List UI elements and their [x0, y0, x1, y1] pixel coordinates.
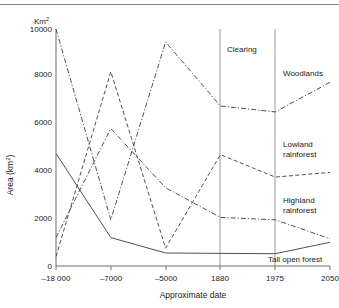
svg-text:Area (km2): Area (km2) — [5, 155, 15, 196]
x-tick-5000: –5000 — [155, 274, 178, 283]
x-tick-1975: 1975 — [266, 274, 284, 283]
y-tick-labels: 0 2000 4000 6000 8000 10000 — [30, 25, 53, 271]
series-line-lowland-rainforest — [56, 72, 330, 257]
y-axis-title: Area (km2) — [5, 155, 15, 196]
series-label-highland-rainforest-line2: rainforest — [283, 206, 317, 215]
series-label-tall-open-forest: Tall open forest — [268, 255, 323, 264]
y-tick-0: 0 — [48, 262, 53, 271]
x-tick-marks — [56, 266, 330, 270]
x-tick-labels: –18 000 –7000 –5000 1880 1975 2050 — [42, 274, 339, 283]
y-tick-6000: 6000 — [34, 118, 52, 127]
x-tick-1880: 1880 — [211, 274, 229, 283]
x-axis-title: Approximate date — [160, 290, 227, 300]
chart-svg: Km2 Area (km2) 0 2000 4000 6000 8000 100… — [0, 0, 339, 308]
x-tick-2050: 2050 — [321, 274, 339, 283]
x-tick-7000: –7000 — [100, 274, 123, 283]
series-line-woodlands — [56, 29, 330, 220]
series-label-lowland-rainforest-line1: Lowland — [283, 140, 313, 149]
y-tick-4000: 4000 — [34, 166, 52, 175]
x-tick-18000: –18 000 — [42, 274, 71, 283]
annotation-clearing: Clearing — [227, 45, 257, 54]
y-tick-10000: 10000 — [30, 25, 53, 34]
chart-figure: Km2 Area (km2) 0 2000 4000 6000 8000 100… — [0, 0, 339, 308]
series-label-highland-rainforest-line1: Highland — [283, 196, 315, 205]
series-label-lowland-rainforest-line2: rainforest — [283, 150, 317, 159]
series-label-woodlands: Woodlands — [283, 69, 323, 78]
y-tick-8000: 8000 — [34, 70, 52, 79]
y-tick-2000: 2000 — [34, 214, 52, 223]
